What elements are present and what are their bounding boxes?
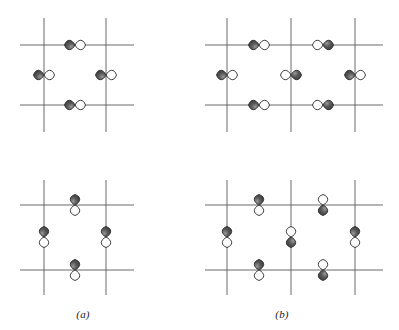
caption-a: (a)	[63, 308, 103, 320]
orbital-lobe-light	[318, 260, 327, 271]
orbital-lobe-light	[254, 270, 263, 281]
orbital-lobe-light	[318, 195, 327, 206]
orbital-group	[34, 40, 117, 109]
orbital-horizontal-dark-left	[249, 40, 270, 49]
orbital-lobe-dark	[254, 195, 263, 206]
orbital-lobe-dark	[65, 40, 76, 49]
orbital-lobe-dark	[249, 40, 260, 49]
orbital-horizontal-dark-left	[65, 40, 86, 49]
orbital-lobe-dark	[254, 260, 263, 271]
orbital-lobe-light	[101, 237, 110, 248]
orbital-lobe-dark	[65, 100, 76, 109]
orbital-lobe-light	[259, 100, 270, 109]
orbital-lobe-light	[355, 70, 366, 79]
orbital-lobe-light	[75, 100, 86, 109]
caption-b: (b)	[262, 308, 302, 320]
panel-a-bottom-left	[10, 175, 150, 300]
orbital-horizontal-dark-right	[313, 40, 334, 49]
orbital-lobe-dark	[70, 260, 79, 271]
orbital-vertical-dark-top	[39, 227, 48, 248]
orbital-lobe-dark	[222, 227, 231, 238]
orbital-lobe-dark	[323, 40, 334, 49]
orbital-lobe-dark	[345, 70, 356, 79]
orbital-lobe-dark	[318, 205, 327, 216]
orbital-lobe-light	[286, 227, 295, 238]
orbital-group	[39, 195, 110, 281]
orbital-horizontal-dark-right	[313, 100, 334, 109]
orbital-lobe-light	[70, 205, 79, 216]
orbital-lobe-light	[259, 40, 270, 49]
orbital-lobe-light	[227, 70, 238, 79]
orbital-lobe-dark	[249, 100, 260, 109]
orbital-lobe-light	[222, 237, 231, 248]
orbital-lobe-dark	[39, 227, 48, 238]
orbital-lobe-dark	[34, 70, 45, 79]
orbital-vertical-dark-bottom	[286, 227, 295, 248]
orbital-lobe-dark	[217, 70, 228, 79]
orbital-lobe-dark	[286, 237, 295, 248]
orbital-horizontal-dark-left	[65, 100, 86, 109]
orbital-vertical-dark-top	[350, 227, 359, 248]
orbital-lobe-light	[75, 40, 86, 49]
orbital-lobe-light	[350, 237, 359, 248]
orbital-lobe-dark	[318, 270, 327, 281]
orbital-lobe-light	[313, 40, 324, 49]
orbital-lobe-light	[39, 237, 48, 248]
panel-b-bottom-right	[205, 175, 395, 300]
orbital-lobe-dark	[96, 70, 107, 79]
orbital-vertical-dark-top	[222, 227, 231, 248]
orbital-lobe-light	[313, 100, 324, 109]
panel-a-top-left	[10, 8, 150, 138]
orbital-vertical-dark-top	[101, 227, 110, 248]
orbital-lobe-light	[254, 205, 263, 216]
orbital-lobe-light	[70, 270, 79, 281]
orbital-lobe-dark	[70, 195, 79, 206]
orbital-lobe-dark	[291, 70, 302, 79]
panel-b-top-right	[205, 8, 395, 138]
orbital-lobe-dark	[323, 100, 334, 109]
orbital-lobe-light	[281, 70, 292, 79]
orbital-lobe-dark	[101, 227, 110, 238]
orbital-horizontal-dark-left	[249, 100, 270, 109]
orbital-lobe-dark	[350, 227, 359, 238]
orbital-lobe-light	[106, 70, 117, 79]
orbital-lobe-light	[44, 70, 55, 79]
orbital-lattice-figure: (a)(b)	[0, 0, 399, 330]
